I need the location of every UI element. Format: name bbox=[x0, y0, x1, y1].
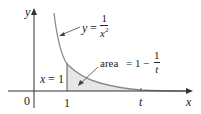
tick-label-1: 1 bbox=[64, 97, 70, 109]
line-label-var: x bbox=[40, 73, 45, 85]
area-label-prefix: area bbox=[100, 58, 118, 69]
y-axis-arrow-icon bbox=[31, 8, 37, 15]
curve-label-num: 1 bbox=[101, 13, 107, 24]
area-label-minus: − bbox=[143, 58, 149, 69]
x-axis-arrow-icon bbox=[186, 88, 193, 94]
curve-label-eq: = bbox=[90, 22, 97, 34]
curve-label-y: y bbox=[82, 22, 87, 34]
curve-label-fraction: 1 x2 bbox=[100, 13, 108, 39]
x-axis-label: x bbox=[186, 96, 191, 108]
area-label-eq: = bbox=[126, 58, 132, 69]
line-label-val: 1 bbox=[58, 73, 64, 85]
curve-label-exp: 2 bbox=[105, 26, 109, 34]
area-label-num: 1 bbox=[154, 50, 160, 61]
y-axis-label: y bbox=[25, 6, 30, 18]
area-label-den: t bbox=[155, 64, 158, 75]
line-label-eq: = bbox=[48, 73, 55, 85]
curve-pointer-arrow-icon bbox=[59, 32, 65, 36]
tick-label-t: t bbox=[139, 96, 142, 108]
area-label-one: 1 bbox=[135, 58, 141, 69]
origin-label: 0 bbox=[24, 95, 30, 107]
area-label-fraction: 1 t bbox=[154, 50, 160, 75]
